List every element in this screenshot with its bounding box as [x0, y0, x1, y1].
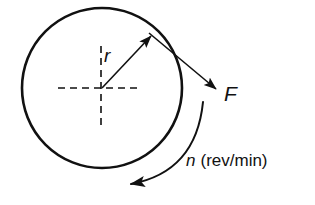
rotational-speed-label: n(rev/min) — [186, 151, 268, 170]
rotation-direction-arc — [131, 102, 203, 184]
rotating-disc-diagram: r F n(rev/min) — [0, 0, 315, 205]
rotational-speed-units: (rev/min) — [200, 151, 267, 170]
force-label: F — [224, 82, 238, 105]
diagram-canvas: r F n(rev/min) — [0, 0, 315, 205]
rotational-speed-symbol: n — [186, 151, 195, 170]
radius-label: r — [104, 45, 111, 66]
